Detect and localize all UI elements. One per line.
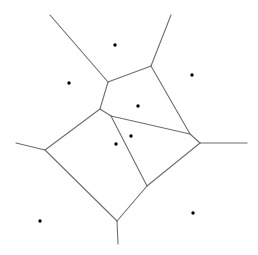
voronoi-edge bbox=[45, 109, 100, 150]
voronoi-site-point bbox=[191, 211, 194, 214]
voronoi-edge bbox=[111, 116, 190, 134]
voronoi-edge bbox=[190, 134, 200, 143]
voronoi-edge bbox=[100, 109, 111, 116]
voronoi-site-point bbox=[136, 104, 139, 107]
voronoi-site-point bbox=[38, 219, 41, 222]
voronoi-edge bbox=[45, 150, 117, 221]
voronoi-site-point bbox=[190, 73, 193, 76]
voronoi-edge bbox=[111, 116, 147, 186]
voronoi-edges bbox=[16, 15, 247, 244]
voronoi-site-point bbox=[114, 142, 117, 145]
voronoi-site-point bbox=[67, 81, 70, 84]
voronoi-edge bbox=[117, 221, 118, 244]
voronoi-edge bbox=[151, 15, 171, 66]
voronoi-edge bbox=[108, 66, 151, 82]
voronoi-edge bbox=[147, 143, 200, 186]
voronoi-site-point bbox=[129, 134, 132, 137]
voronoi-site-point bbox=[113, 43, 116, 46]
voronoi-edge bbox=[151, 66, 190, 134]
voronoi-edge bbox=[50, 15, 108, 82]
voronoi-diagram bbox=[0, 0, 258, 255]
voronoi-edge bbox=[100, 82, 108, 109]
voronoi-sites bbox=[38, 43, 194, 222]
voronoi-edge bbox=[16, 143, 45, 150]
voronoi-edge bbox=[117, 186, 147, 221]
